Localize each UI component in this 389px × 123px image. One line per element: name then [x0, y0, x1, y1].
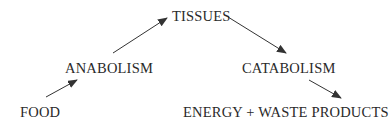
node-catabolism: CATABOLISM [242, 61, 336, 76]
arrow-food-to-anabolism [46, 80, 77, 97]
arrow-anabolism-to-tissues [113, 18, 167, 53]
arrow-catabolism-to-energy [309, 80, 341, 98]
node-energy-waste: ENERGY + WASTE PRODUCTS [183, 105, 389, 120]
node-anabolism: ANABOLISM [65, 61, 153, 76]
node-tissues: TISSUES [172, 9, 231, 24]
node-food: FOOD [20, 105, 60, 120]
arrow-tissues-to-catabolism [228, 17, 286, 53]
